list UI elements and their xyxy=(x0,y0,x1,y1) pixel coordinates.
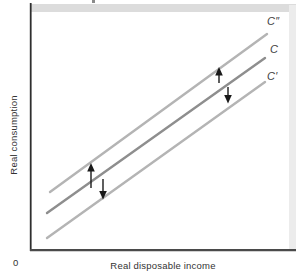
top-shade-band xyxy=(31,4,296,12)
line-label-c-double-prime: C″ xyxy=(267,16,279,27)
shift-arrow-up-right xyxy=(215,67,223,83)
right-shade-band xyxy=(289,5,296,250)
line-c-prime xyxy=(47,82,265,238)
consumption-function-figure: C″ C C′ Real consumption Real disposable… xyxy=(0,0,304,276)
y-axis-label: Real consumption xyxy=(8,95,19,174)
line-label-c: C xyxy=(270,44,278,55)
origin-label: 0 xyxy=(13,257,18,268)
plot-area xyxy=(0,0,304,276)
shift-arrow-down-right xyxy=(224,87,232,104)
line-c-double-prime xyxy=(50,34,267,192)
x-axis-label: Real disposable income xyxy=(30,260,296,271)
line-c xyxy=(47,58,265,213)
cropped-artifact-mark xyxy=(92,0,95,3)
line-label-c-prime: C′ xyxy=(267,71,278,82)
